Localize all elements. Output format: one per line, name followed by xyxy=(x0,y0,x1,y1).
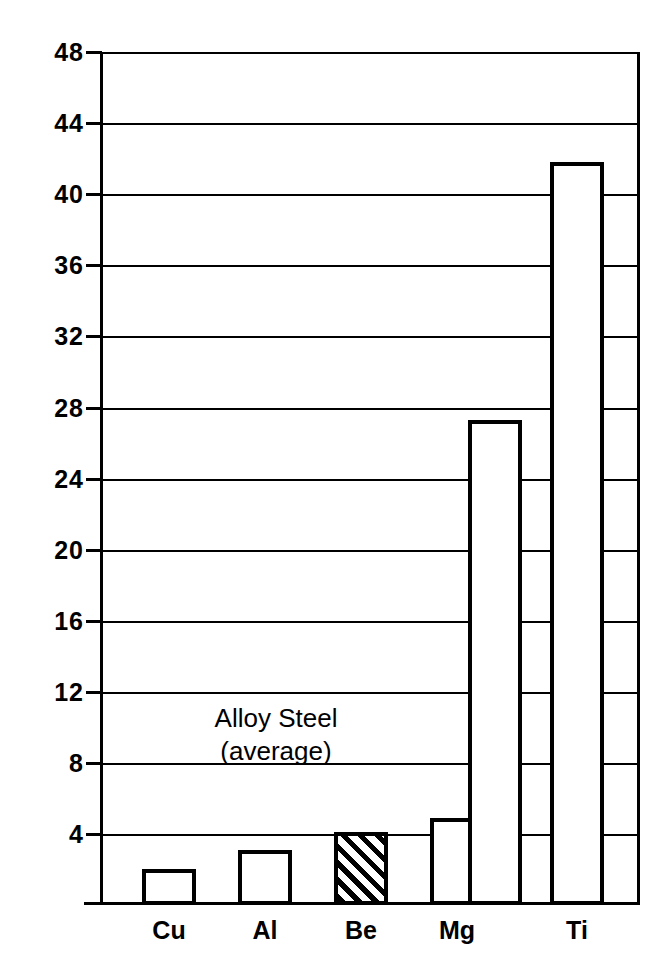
y-tick-label: 8 xyxy=(69,751,84,776)
gridline-44 xyxy=(100,123,640,125)
x-tick-label-be: Be xyxy=(345,918,377,943)
bar-al xyxy=(238,850,292,905)
bar-cu xyxy=(142,869,196,905)
x-tick-label-ti: Ti xyxy=(566,918,588,943)
bar-chart: 48 44 40 36 32 28 24 20 16 12 8 4 xyxy=(0,0,669,973)
plot-area: Alloy Steel (average) xyxy=(100,52,640,905)
alloy-steel-annotation: Alloy Steel (average) xyxy=(92,702,460,769)
y-tick-label: 16 xyxy=(54,609,84,634)
x-axis-line xyxy=(84,902,640,905)
y-tick-label: 44 xyxy=(54,111,84,136)
y-tick-label: 48 xyxy=(54,40,84,65)
plot-right-border xyxy=(637,52,640,905)
y-tick-label: 4 xyxy=(69,822,84,847)
y-tick-label: 28 xyxy=(54,396,84,421)
bar-alloy-steel xyxy=(468,420,522,905)
x-tick-label-cu: Cu xyxy=(152,918,185,943)
gridline-12 xyxy=(100,692,470,694)
y-tick-label: 40 xyxy=(54,182,84,207)
y-tick-label: 20 xyxy=(54,538,84,563)
bar-be xyxy=(334,832,388,905)
annotation-line-1: Alloy Steel xyxy=(92,702,460,735)
y-tick-label: 12 xyxy=(54,680,84,705)
y-tick-label: 24 xyxy=(54,467,84,492)
gridline-20 xyxy=(100,550,470,552)
x-tick-label-al: Al xyxy=(253,918,278,943)
gridline-48 xyxy=(100,52,640,54)
gridline-4 xyxy=(100,834,470,836)
x-tick-label-mg: Mg xyxy=(439,918,475,943)
y-axis-line xyxy=(100,52,103,905)
annotation-line-2: (average) xyxy=(92,735,460,768)
y-tick-label: 32 xyxy=(54,324,84,349)
gridline-16 xyxy=(100,621,470,623)
bar-ti xyxy=(550,162,604,905)
y-tick-label: 36 xyxy=(54,253,84,278)
y-axis-tick-labels: 48 44 40 36 32 28 24 20 16 12 8 4 xyxy=(12,0,84,973)
